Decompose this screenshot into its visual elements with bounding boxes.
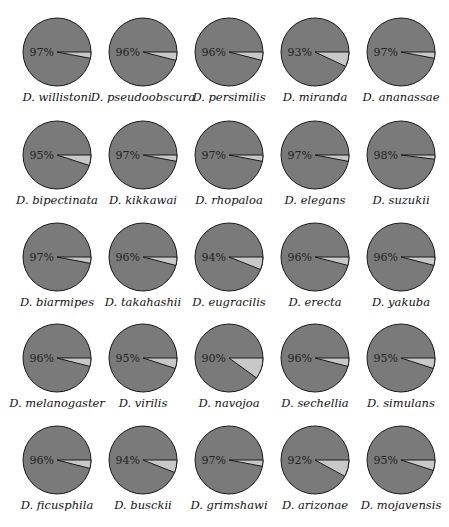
pie-percent-label: 95% <box>374 454 398 467</box>
pie-graphic: 95% <box>366 320 436 396</box>
pie-percent-label: 96% <box>30 352 54 365</box>
pie-chart: 98%D. suzukii <box>356 117 446 217</box>
pie-percent-label: 96% <box>202 46 226 59</box>
pie-graphic: 94% <box>108 422 178 498</box>
species-label: D. yakuba <box>346 295 449 309</box>
species-label: D. simulans <box>346 396 449 410</box>
species-label: D. mojavensis <box>346 498 449 512</box>
pie-graphic: 97% <box>108 117 178 193</box>
pie-graphic: 98% <box>366 117 436 193</box>
species-label: D. suzukii <box>346 193 449 207</box>
pie-graphic: 96% <box>22 422 92 498</box>
pie-graphic: 94% <box>194 219 264 295</box>
pie-percent-label: 94% <box>202 251 226 264</box>
pie-percent-label: 92% <box>288 454 312 467</box>
pie-percent-label: 96% <box>288 352 312 365</box>
pie-percent-label: 94% <box>116 454 140 467</box>
pie-graphic: 95% <box>366 422 436 498</box>
pie-graphic: 96% <box>108 219 178 295</box>
pie-percent-label: 97% <box>30 251 54 264</box>
pie-percent-label: 95% <box>116 352 140 365</box>
pie-percent-label: 95% <box>30 149 54 162</box>
pie-chart: 96%D. yakuba <box>356 219 446 319</box>
pie-percent-label: 96% <box>374 251 398 264</box>
pie-percent-label: 97% <box>202 454 226 467</box>
pie-chart-grid: 97%D. willistoni96%D. pseudoobscura96%D.… <box>0 0 449 527</box>
pie-graphic: 96% <box>280 219 350 295</box>
pie-percent-label: 96% <box>116 251 140 264</box>
pie-percent-label: 97% <box>288 149 312 162</box>
pie-graphic: 97% <box>22 219 92 295</box>
pie-percent-label: 96% <box>288 251 312 264</box>
pie-chart: 97%D. ananassae <box>356 14 446 114</box>
pie-chart: 95%D. simulans <box>356 320 446 420</box>
pie-percent-label: 93% <box>288 46 312 59</box>
pie-graphic: 97% <box>366 14 436 90</box>
pie-percent-label: 97% <box>30 46 54 59</box>
pie-percent-label: 98% <box>374 149 398 162</box>
pie-graphic: 92% <box>280 422 350 498</box>
pie-graphic: 95% <box>22 117 92 193</box>
pie-percent-label: 95% <box>374 352 398 365</box>
pie-percent-label: 96% <box>116 46 140 59</box>
species-label: D. ananassae <box>346 90 449 104</box>
pie-percent-label: 96% <box>30 454 54 467</box>
pie-graphic: 96% <box>280 320 350 396</box>
pie-graphic: 97% <box>280 117 350 193</box>
pie-percent-label: 90% <box>202 352 226 365</box>
pie-percent-label: 97% <box>202 149 226 162</box>
pie-graphic: 96% <box>366 219 436 295</box>
pie-chart: 95%D. mojavensis <box>356 422 446 522</box>
pie-graphic: 96% <box>108 14 178 90</box>
pie-graphic: 96% <box>22 320 92 396</box>
pie-graphic: 95% <box>108 320 178 396</box>
pie-percent-label: 97% <box>374 46 398 59</box>
pie-graphic: 90% <box>194 320 264 396</box>
pie-graphic: 97% <box>194 422 264 498</box>
pie-graphic: 97% <box>22 14 92 90</box>
pie-graphic: 93% <box>280 14 350 90</box>
pie-graphic: 96% <box>194 14 264 90</box>
pie-graphic: 97% <box>194 117 264 193</box>
pie-percent-label: 97% <box>116 149 140 162</box>
